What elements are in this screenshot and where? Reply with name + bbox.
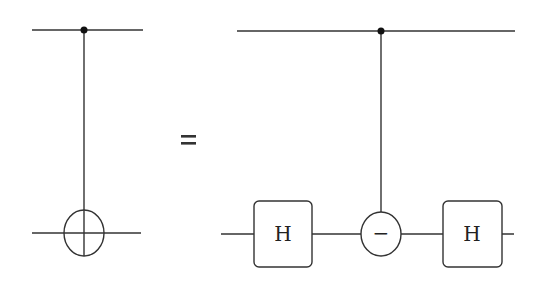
control-dot-icon [378,28,385,35]
gate-label: − [373,221,390,245]
hadamard-gate-2: H [443,201,502,267]
controlled-minus-gate: − [361,212,401,256]
equals-sign [181,135,196,145]
circuit-diagram: H − H [0,0,534,285]
gate-label: H [274,222,291,246]
control-dot-icon [81,27,88,34]
gate-label: H [463,222,480,246]
hadamard-gate-1: H [254,201,312,267]
left-circuit-cnot [32,27,143,257]
right-circuit-decomposition: H − H [221,28,515,268]
